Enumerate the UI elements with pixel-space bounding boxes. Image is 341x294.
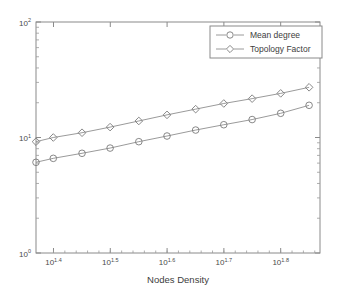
chart-legend[interactable]: Mean degreeTopology Factor [210,26,322,58]
legend-label: Mean degree [250,30,300,40]
legend-label: Topology Factor [250,44,311,54]
x-axis-title: Nodes Density [147,274,209,285]
figure-canvas: 100101102 101.4101.5101.6101.7101.8 Node… [0,0,341,294]
line-chart: 100101102 101.4101.5101.6101.7101.8 Node… [0,0,341,294]
